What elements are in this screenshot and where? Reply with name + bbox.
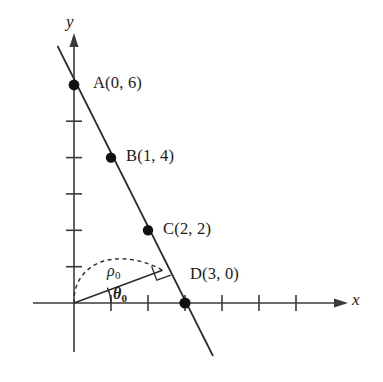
theta-glyph: θ — [113, 285, 121, 302]
point-D — [179, 297, 190, 308]
y-axis-arrowhead — [70, 33, 79, 47]
rho-label: ρ0 — [107, 262, 120, 281]
x-axis-arrowhead — [334, 299, 348, 308]
rho-glyph: ρ — [107, 262, 115, 279]
coordinate-diagram — [0, 0, 383, 382]
rho-subscript: 0 — [115, 269, 121, 281]
point-label-B: B(1, 4) — [126, 146, 174, 166]
point-B — [106, 152, 116, 162]
point-A — [69, 80, 80, 91]
point-label-D: D(3, 0) — [190, 264, 239, 284]
point-C — [143, 225, 153, 235]
x-axis-label: x — [352, 290, 360, 310]
y-axis-label: y — [66, 12, 74, 32]
theta-subscript: 0 — [122, 292, 128, 304]
point-label-C: C(2, 2) — [163, 219, 211, 239]
right-angle-marker — [152, 266, 171, 280]
theta-label: θ0 — [113, 285, 127, 304]
figure-container: y x A(0, 6) B(1, 4) C(2, 2) D(3, 0) ρ0 θ… — [0, 0, 383, 382]
point-label-A: A(0, 6) — [93, 73, 142, 93]
